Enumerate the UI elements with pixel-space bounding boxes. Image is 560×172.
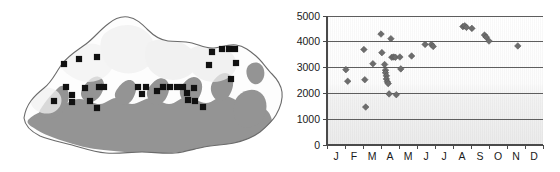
chart-panel: 010002000300040005000 JFMAMJJASOND bbox=[290, 0, 560, 172]
map-occurrence-marker bbox=[167, 84, 173, 90]
y-tick-label: 4000 bbox=[297, 35, 321, 47]
elevation-by-month-scatter: 010002000300040005000 JFMAMJJASOND bbox=[290, 0, 560, 172]
x-tick-label: A bbox=[458, 150, 465, 162]
y-tick-label: 2000 bbox=[297, 87, 321, 99]
figure-container: 010002000300040005000 JFMAMJJASOND bbox=[0, 0, 560, 172]
map-occurrence-marker bbox=[180, 84, 186, 90]
bhutan-map bbox=[0, 0, 290, 172]
map-occurrence-marker bbox=[143, 84, 149, 90]
map-occurrence-marker bbox=[206, 62, 212, 68]
x-tick-label: S bbox=[476, 150, 483, 162]
x-axis-ticks: JFMAMJJASOND bbox=[327, 145, 543, 162]
y-tick-label: 0 bbox=[314, 139, 320, 151]
map-occurrence-marker bbox=[63, 84, 69, 90]
x-tick-label: D bbox=[530, 150, 538, 162]
map-occurrence-marker bbox=[209, 49, 215, 55]
map-occurrence-marker bbox=[87, 98, 93, 104]
map-occurrence-marker bbox=[228, 76, 234, 82]
map-occurrence-marker bbox=[185, 97, 191, 103]
map-occurrence-marker bbox=[61, 61, 67, 67]
map-occurrence-marker bbox=[135, 84, 141, 90]
y-axis-ticks: 010002000300040005000 bbox=[297, 10, 327, 151]
map-occurrence-marker bbox=[69, 92, 75, 98]
x-tick-label: J bbox=[333, 150, 338, 162]
x-tick-label: M bbox=[404, 150, 413, 162]
map-occurrence-marker bbox=[160, 84, 166, 90]
map-occurrence-marker bbox=[94, 54, 100, 60]
map-occurrence-marker bbox=[51, 98, 57, 104]
map-occurrence-marker bbox=[69, 99, 75, 105]
map-occurrence-marker bbox=[101, 84, 107, 90]
map-occurrence-marker bbox=[191, 85, 197, 91]
map-occurrence-marker bbox=[233, 60, 239, 66]
map-occurrence-marker bbox=[154, 88, 160, 94]
x-tick-label: A bbox=[386, 150, 393, 162]
x-tick-label: J bbox=[441, 150, 446, 162]
y-tick-label: 5000 bbox=[297, 10, 321, 22]
map-occurrence-marker bbox=[76, 56, 82, 62]
map-occurrence-marker bbox=[200, 104, 206, 110]
x-tick-label: O bbox=[494, 150, 502, 162]
map-occurrence-marker bbox=[139, 91, 145, 97]
map-occurrence-marker bbox=[226, 46, 232, 52]
map-panel bbox=[0, 0, 290, 172]
map-occurrence-marker bbox=[174, 84, 180, 90]
map-occurrence-marker bbox=[232, 46, 238, 52]
map-occurrence-marker bbox=[82, 85, 88, 91]
map-occurrence-marker bbox=[184, 90, 190, 96]
map-occurrence-marker bbox=[219, 46, 225, 52]
x-tick-label: F bbox=[351, 150, 357, 162]
map-occurrence-marker bbox=[94, 105, 100, 111]
map-occurrence-marker bbox=[192, 98, 198, 104]
plot-background-texture bbox=[327, 16, 543, 145]
y-tick-label: 3000 bbox=[297, 61, 321, 73]
x-tick-label: M bbox=[368, 150, 377, 162]
y-tick-label: 1000 bbox=[297, 113, 321, 125]
x-tick-label: J bbox=[423, 150, 428, 162]
x-tick-label: N bbox=[512, 150, 520, 162]
